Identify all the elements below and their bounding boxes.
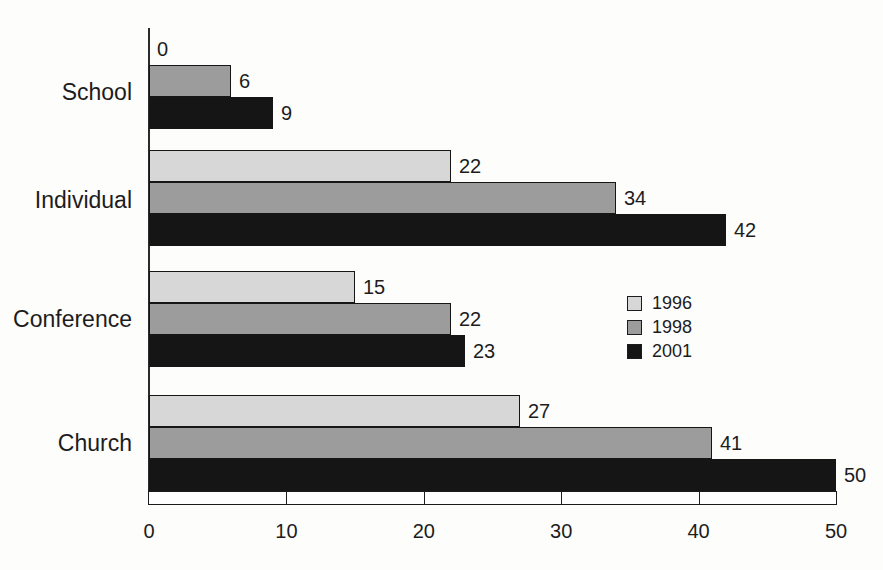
bar-chart: 069223442152223274150 SchoolIndividualCo…: [0, 0, 883, 570]
bar-conference-1996: [149, 271, 355, 303]
bar-conference-1998: [149, 303, 451, 335]
legend-swatch-1998: [627, 320, 642, 335]
bar-individual-2001: [149, 214, 726, 246]
bar-individual-1998: [149, 182, 616, 214]
value-label-school-1996: 0: [157, 33, 168, 65]
bar-church-1998: [149, 427, 712, 459]
legend-item-1998: 1998: [627, 315, 692, 339]
bar-church-2001: [149, 459, 836, 491]
value-label-conference-1998: 22: [459, 303, 481, 335]
value-label-school-2001: 9: [281, 97, 292, 129]
value-label-church-1998: 41: [720, 427, 742, 459]
value-label-individual-1996: 22: [459, 150, 481, 182]
x-axis-tick-label-40: 40: [687, 521, 709, 541]
category-label-conference: Conference: [0, 308, 132, 331]
category-label-individual: Individual: [0, 189, 132, 212]
legend: 199619982001: [627, 291, 692, 363]
value-label-individual-1998: 34: [624, 182, 646, 214]
category-label-school: School: [0, 81, 132, 104]
bar-church-1996: [149, 395, 520, 427]
legend-item-2001: 2001: [627, 339, 692, 363]
x-axis-strip: [148, 491, 837, 505]
legend-item-1996: 1996: [627, 291, 692, 315]
category-label-church: Church: [0, 432, 132, 455]
value-label-conference-1996: 15: [363, 271, 385, 303]
value-label-church-2001: 50: [844, 459, 866, 491]
x-axis-tick-label-0: 0: [143, 521, 154, 541]
value-label-conference-2001: 23: [473, 335, 495, 367]
x-axis-tick-label-30: 30: [550, 521, 572, 541]
x-axis-tick-mark-30: [561, 492, 562, 504]
legend-label-1996: 1996: [652, 294, 692, 312]
x-axis-tick-label-20: 20: [413, 521, 435, 541]
legend-swatch-1996: [627, 296, 642, 311]
bar-school-2001: [149, 97, 273, 129]
x-axis-tick-label-10: 10: [275, 521, 297, 541]
x-axis-tick-mark-20: [424, 492, 425, 504]
x-axis-tick-mark-10: [286, 492, 287, 504]
legend-swatch-2001: [627, 344, 642, 359]
value-label-school-1998: 6: [239, 65, 250, 97]
value-label-church-1996: 27: [528, 395, 550, 427]
legend-label-1998: 1998: [652, 318, 692, 336]
x-axis-tick-mark-40: [699, 492, 700, 504]
bar-conference-2001: [149, 335, 465, 367]
value-label-individual-2001: 42: [734, 214, 756, 246]
bar-school-1998: [149, 65, 231, 97]
x-axis-tick-label-50: 50: [825, 521, 847, 541]
legend-label-2001: 2001: [652, 342, 692, 360]
bar-individual-1996: [149, 150, 451, 182]
